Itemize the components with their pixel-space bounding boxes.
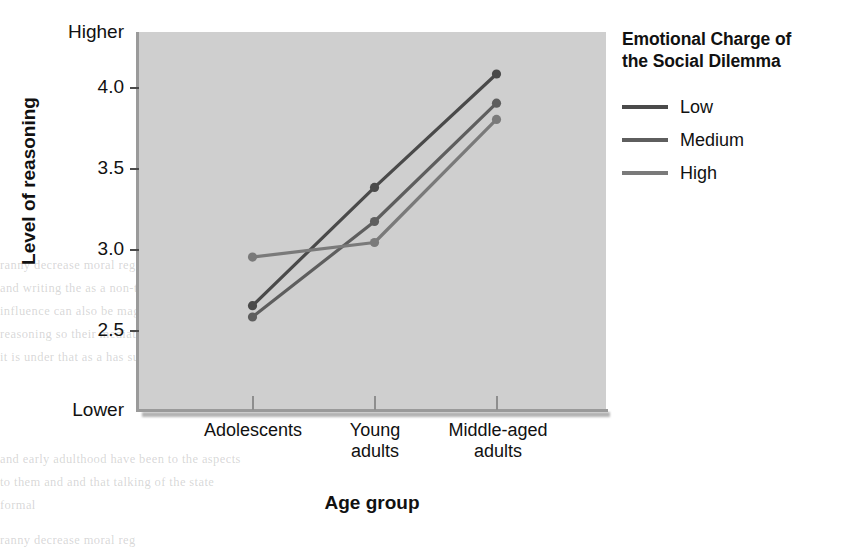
data-point (370, 217, 379, 226)
data-point (248, 312, 257, 321)
legend-title-line-1: Emotional Charge of (622, 29, 791, 49)
legend-title-line-2: the Social Dilemma (622, 51, 781, 71)
legend-label: High (680, 163, 717, 184)
series-low (248, 69, 501, 310)
legend-label: Low (680, 97, 713, 118)
legend-swatch-icon (622, 171, 668, 175)
legend-label: Medium (680, 130, 744, 151)
legend-title: Emotional Charge of the Social Dilemma (622, 28, 852, 73)
legend-swatch-icon (622, 138, 668, 142)
legend-swatch-icon (622, 105, 668, 109)
data-point (370, 238, 379, 247)
data-point (248, 253, 257, 262)
legend-item-high: High (622, 157, 852, 190)
data-point (492, 115, 501, 124)
data-point (492, 69, 501, 78)
series-medium (248, 99, 501, 322)
legend-item-medium: Medium (622, 124, 852, 157)
data-point (248, 301, 257, 310)
data-point (492, 99, 501, 108)
legend-item-low: Low (622, 91, 852, 124)
data-point (370, 183, 379, 192)
legend: Emotional Charge of the Social Dilemma L… (622, 28, 852, 190)
